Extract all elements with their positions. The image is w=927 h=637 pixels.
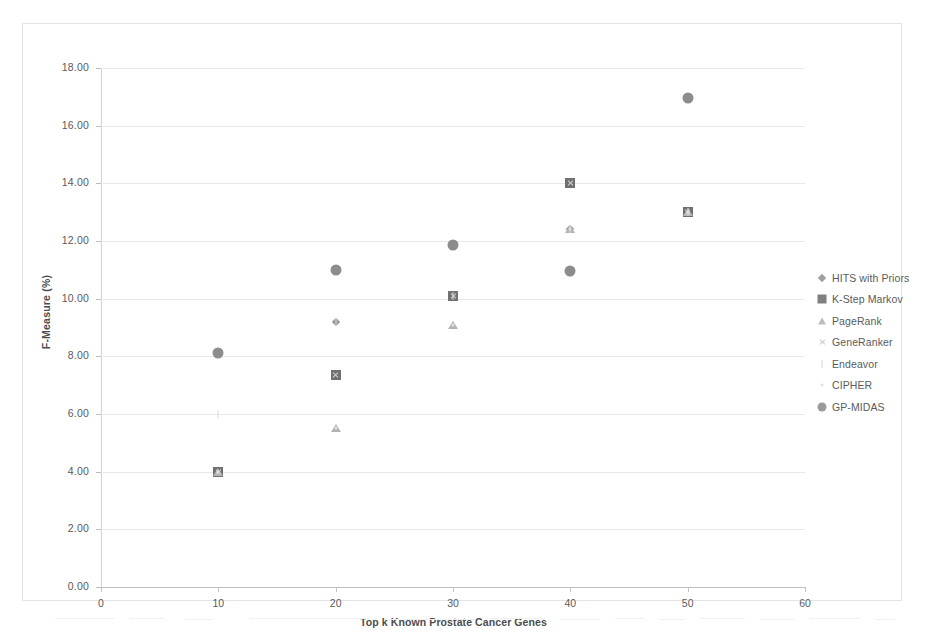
scan-artifact xyxy=(385,619,475,620)
data-point xyxy=(218,410,219,418)
scan-artifact xyxy=(560,619,600,620)
data-point xyxy=(565,266,576,277)
scan-artifact xyxy=(700,618,745,619)
x-marker-icon xyxy=(815,335,829,349)
scan-artifact xyxy=(490,618,545,619)
scan-artifact xyxy=(130,618,165,619)
legend-label: Endeavor xyxy=(832,358,878,370)
x-tick-label: 0 xyxy=(81,597,121,609)
plot-area xyxy=(101,68,805,587)
y-tick-label: 18.00 xyxy=(62,61,89,73)
x-tick-mark xyxy=(336,587,337,592)
y-tick-label: 14.00 xyxy=(62,176,89,188)
scan-artifact xyxy=(875,619,895,620)
x-tick-label: 40 xyxy=(550,597,590,609)
data-point xyxy=(567,180,574,187)
data-point xyxy=(686,211,689,214)
y-tick-label: 8.00 xyxy=(68,349,89,361)
circle-marker-icon xyxy=(815,400,829,414)
data-point xyxy=(334,427,337,430)
legend-item-generanker[interactable]: GeneRanker xyxy=(815,332,923,354)
square-marker-icon xyxy=(815,292,829,306)
data-point xyxy=(217,470,220,473)
legend-label: CIPHER xyxy=(832,379,872,391)
x-tick-label: 30 xyxy=(433,597,473,609)
legend-label: GP-MIDAS xyxy=(832,401,885,413)
data-point xyxy=(453,292,454,300)
x-tick-label: 60 xyxy=(785,597,825,609)
scan-artifact xyxy=(615,618,645,619)
legend-item-gp-midas[interactable]: GP-MIDAS xyxy=(815,396,923,418)
y-tick-label: 10.00 xyxy=(62,292,89,304)
data-point xyxy=(448,240,459,251)
y-tick-label: 0.00 xyxy=(68,580,89,592)
x-tick-mark xyxy=(101,587,102,592)
x-tick-mark xyxy=(688,587,689,592)
x-tick-mark xyxy=(453,587,454,592)
chart-frame: F-Measure (%) 0.002.004.006.008.0010.001… xyxy=(22,23,902,601)
x-tick-mark xyxy=(570,587,571,592)
legend-label: K-Step Markov xyxy=(832,293,903,305)
scan-artifact xyxy=(660,619,685,620)
data-point xyxy=(682,93,693,104)
scan-artifact xyxy=(760,619,795,620)
data-point xyxy=(213,348,224,359)
y-tick-label: 4.00 xyxy=(68,465,89,477)
dot-marker-icon xyxy=(815,378,829,392)
legend-item-endeavor[interactable]: Endeavor xyxy=(815,353,923,375)
x-tick-label: 50 xyxy=(668,597,708,609)
y-tick-label: 12.00 xyxy=(62,234,89,246)
legend-item-k-step-markov[interactable]: K-Step Markov xyxy=(815,289,923,311)
x-tick-label: 20 xyxy=(316,597,356,609)
diamond-marker-icon xyxy=(815,271,829,285)
triangle-marker-icon xyxy=(815,314,829,328)
y-tick-label: 16.00 xyxy=(62,119,89,131)
y-tick-label: 2.00 xyxy=(68,522,89,534)
x-tick-mark xyxy=(805,587,806,592)
scan-artifact xyxy=(250,618,370,619)
data-point xyxy=(569,228,572,231)
data-point xyxy=(330,264,341,275)
legend-label: GeneRanker xyxy=(832,336,893,348)
data-point xyxy=(335,318,336,326)
data-point xyxy=(452,323,455,326)
data-point xyxy=(332,372,339,379)
x-tick-label: 10 xyxy=(198,597,238,609)
legend-item-cipher[interactable]: CIPHER xyxy=(815,375,923,397)
scan-artifact xyxy=(810,618,860,619)
legend-item-hits-with-priors[interactable]: HITS with Priors xyxy=(815,267,923,289)
scan-artifact xyxy=(55,618,115,619)
legend-label: HITS with Priors xyxy=(832,272,909,284)
legend-label: PageRank xyxy=(832,315,882,327)
x-tick-mark xyxy=(218,587,219,592)
scan-artifact xyxy=(185,619,213,620)
chart-legend: HITS with PriorsK-Step MarkovPageRankGen… xyxy=(815,267,923,418)
y-axis-title: F-Measure (%) xyxy=(40,275,52,349)
legend-item-pagerank[interactable]: PageRank xyxy=(815,310,923,332)
y-tick-label: 6.00 xyxy=(68,407,89,419)
tick-marker-icon xyxy=(815,357,829,371)
